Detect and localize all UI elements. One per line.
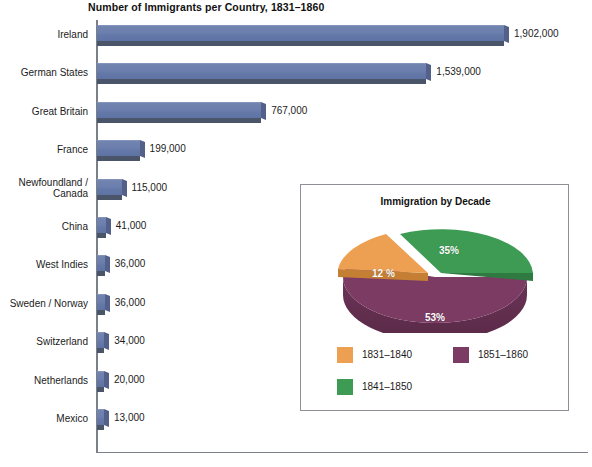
bar-row: France199,000 [0,140,592,178]
bar-shadow-face [97,425,104,430]
bar-shadow-face [97,233,106,238]
bar-category-label: Netherlands [0,375,88,387]
pie-chart-inset-panel: Immigration by Decade [300,184,569,411]
bar-category-label: Mexico [0,413,88,425]
immigration-figure: Number of Immigrants per Country, 1831–1… [0,0,592,467]
bar-fill [97,102,261,119]
bar-value-label: 34,000 [114,335,145,346]
bar-fill [97,25,504,42]
bar-value-label: 767,000 [271,105,307,116]
legend-label: 1831–1840 [362,349,412,360]
legend-label: 1841–1850 [362,381,412,392]
bar-side-face [106,217,111,235]
bar-graphic [97,332,104,356]
bar-graphic [97,25,504,49]
bar-side-face [105,255,110,273]
bar-value-label: 1,902,000 [514,28,559,39]
bar-category-label: German States [0,67,88,79]
bar-shadow-face [97,156,140,161]
bar-side-face [104,371,109,389]
legend-swatch-icon [337,379,353,395]
bar-fill [97,140,140,157]
bar-graphic [97,255,105,279]
bar-fill [97,179,122,196]
legend-swatch-icon [453,347,469,363]
bar-shadow-face [97,387,104,392]
bar-row: Great Britain767,000 [0,102,592,140]
bar-category-label: Sweden / Norway [0,298,88,310]
bar-value-label: 36,000 [115,258,146,269]
bar-graphic [97,294,105,318]
bar-shadow-face [97,348,104,353]
bar-graphic [97,409,104,433]
bar-side-face [426,63,431,81]
pie-label-1831-1840: 12 % [372,268,395,279]
bar-fill [97,217,106,234]
bar-shadow-face [97,79,426,84]
bar-shadow-face [97,195,122,200]
bar-row: Ireland1,902,000 [0,25,592,63]
bar-side-face [122,179,127,197]
bar-fill [97,63,426,80]
bar-value-label: 13,000 [114,412,145,423]
bar-category-label: West Indies [0,259,88,271]
bar-graphic [97,102,261,126]
pie-label-1841-1850: 35% [439,245,459,256]
bar-value-label: 199,000 [150,143,186,154]
bar-category-label: France [0,144,88,156]
legend-label: 1851–1860 [478,349,528,360]
bar-shadow-face [97,41,504,46]
bar-row: German States1,539,000 [0,63,592,101]
bar-side-face [104,409,109,427]
bar-category-label: Switzerland [0,336,88,348]
pie-legend: 1831–1840 1841–1850 1851–1860 [301,347,570,409]
bar-value-label: 20,000 [114,374,145,385]
bar-graphic [97,179,122,203]
bar-fill [97,294,105,311]
bar-fill [97,255,105,272]
pie-label-1851-1860: 53% [425,312,445,323]
bar-side-face [504,25,509,43]
bar-shadow-face [97,310,105,315]
bar-graphic [97,217,106,241]
bar-side-face [104,332,109,350]
bar-category-label: China [0,221,88,233]
bar-fill [97,371,104,388]
bar-category-label: Great Britain [0,106,88,118]
bar-row: Mexico13,000 [0,409,592,447]
bar-shadow-face [97,271,105,276]
bar-side-face [105,294,110,312]
bar-side-face [140,140,145,158]
bar-fill [97,409,104,426]
legend-swatch-icon [337,347,353,363]
bar-shadow-face [97,118,261,123]
bar-value-label: 115,000 [132,182,167,193]
bar-graphic [97,371,104,395]
bar-side-face [261,102,266,120]
bar-category-label: Ireland [0,29,88,41]
bar-value-label: 41,000 [116,220,147,231]
bar-value-label: 36,000 [115,297,146,308]
bar-value-label: 1,539,000 [436,66,481,77]
bar-graphic [97,63,426,87]
pie-chart-title: Immigration by Decade [301,196,570,207]
bar-graphic [97,140,140,164]
pie-chart-graphic: 35% 12 % 53% [315,211,555,333]
bar-category-label: Newfoundland /Canada [0,177,88,200]
